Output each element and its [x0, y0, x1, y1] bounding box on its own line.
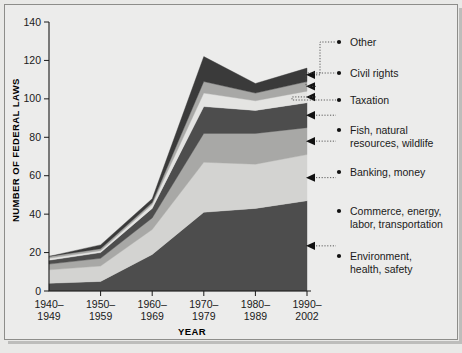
legend-pointer-environment-health-safety: [306, 242, 315, 250]
legend-pointer-banking-money: [306, 137, 315, 145]
y-tick-labels: 140120100806040200: [23, 16, 49, 297]
legend-bullet-icon: [337, 209, 341, 213]
x-tick-label: 2002: [295, 310, 319, 322]
legend-bullet-icon: [337, 71, 341, 75]
y-tick-label: 0: [35, 285, 41, 297]
y-axis-title: NUMBER OF FEDERAL LAWS: [10, 78, 21, 222]
legend-label-banking-money[interactable]: Banking, money: [350, 166, 426, 178]
x-tick-label: 1950–: [86, 298, 115, 310]
x-tick-label: 1980–: [241, 298, 270, 310]
y-tick-label: 20: [29, 246, 41, 258]
x-tick-label: 1990–: [292, 298, 321, 310]
x-tick-label: 1960–: [138, 298, 167, 310]
legend-group: OtherCivil rightsTaxationFish, naturalre…: [337, 36, 443, 275]
legend-pointer-commerce-energy-labor-transportation: [306, 173, 315, 181]
legend-label-commerce-energy-labor-transportation[interactable]: labor, transportation: [350, 218, 443, 230]
legend-bullet-icon: [337, 128, 341, 132]
y-tick-label: 100: [23, 92, 41, 104]
x-tick-label: 1989: [244, 310, 268, 322]
legend-label-civil-rights[interactable]: Civil rights: [350, 67, 398, 79]
legend-label-fish-natural-resources-wildlife[interactable]: Fish, natural: [350, 124, 408, 136]
x-tick-labels: 1940–19491950–19591960–19691970–19791980…: [34, 291, 321, 322]
legend-label-environment-health-safety[interactable]: Environment,: [350, 250, 412, 262]
y-tick-label: 140: [23, 16, 41, 28]
x-tick-label: 1949: [37, 310, 61, 322]
y-tick-label: 80: [29, 131, 41, 143]
x-axis-title: YEAR: [178, 326, 206, 337]
x-tick-label: 1970–: [189, 298, 218, 310]
legend-bullet-icon: [337, 254, 341, 258]
legend-pointer-fish-natural-resources-wildlife: [306, 111, 315, 119]
legend-label-taxation[interactable]: Taxation: [350, 94, 389, 106]
y-tick-label: 40: [29, 208, 41, 220]
legend-label-environment-health-safety[interactable]: health, safety: [350, 263, 413, 275]
legend-bullet-icon: [337, 40, 341, 44]
x-tick-label: 1940–: [34, 298, 63, 310]
legend-label-commerce-energy-labor-transportation[interactable]: Commerce, energy,: [350, 205, 441, 217]
legend-label-other[interactable]: Other: [350, 36, 377, 48]
y-tick-label: 60: [29, 169, 41, 181]
legend-bullet-icon: [337, 170, 341, 174]
stacked-area-chart: 140120100806040200 1940–19491950–1959196…: [0, 0, 462, 353]
legend-label-fish-natural-resources-wildlife[interactable]: resources, wildlife: [350, 137, 434, 149]
y-tick-label: 120: [23, 54, 41, 66]
legend-pointer-other: [306, 71, 315, 79]
figure-panel: 140120100806040200 1940–19491950–1959196…: [0, 0, 462, 353]
x-tick-label: 1969: [141, 310, 165, 322]
x-tick-label: 1979: [192, 310, 216, 322]
legend-bullet-icon: [337, 98, 341, 102]
legend-leader-other: [316, 42, 336, 75]
area-series-group: [49, 57, 307, 291]
x-tick-label: 1959: [89, 310, 113, 322]
